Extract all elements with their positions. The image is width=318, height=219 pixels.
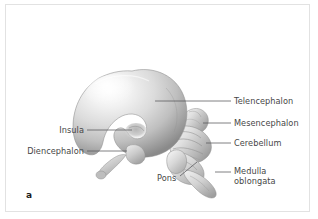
figure-panel: Telencephalon Mesencephalon Cerebellum M…: [0, 0, 318, 219]
label-insula: Insula: [0, 125, 84, 135]
label-pons: Pons: [157, 173, 176, 183]
panel-letter: a: [26, 190, 32, 200]
pons-shape: [167, 150, 187, 174]
label-medulla-line2: oblongata: [234, 176, 276, 186]
label-medulla-oblongata: Medulla oblongata: [234, 166, 276, 186]
label-mesencephalon: Mesencephalon: [234, 118, 299, 128]
label-telencephalon: Telencephalon: [234, 96, 293, 106]
label-cerebellum: Cerebellum: [234, 138, 281, 148]
label-diencephalon: Diencephalon: [0, 146, 84, 156]
label-medulla-line1: Medulla: [234, 166, 266, 176]
